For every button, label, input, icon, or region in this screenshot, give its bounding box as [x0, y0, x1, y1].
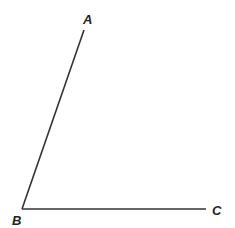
point-label-a: A [82, 12, 92, 27]
point-label-c: C [212, 203, 222, 218]
angle-diagram: A B C [0, 0, 235, 228]
ray-ba [22, 30, 84, 209]
point-label-b: B [12, 213, 21, 228]
